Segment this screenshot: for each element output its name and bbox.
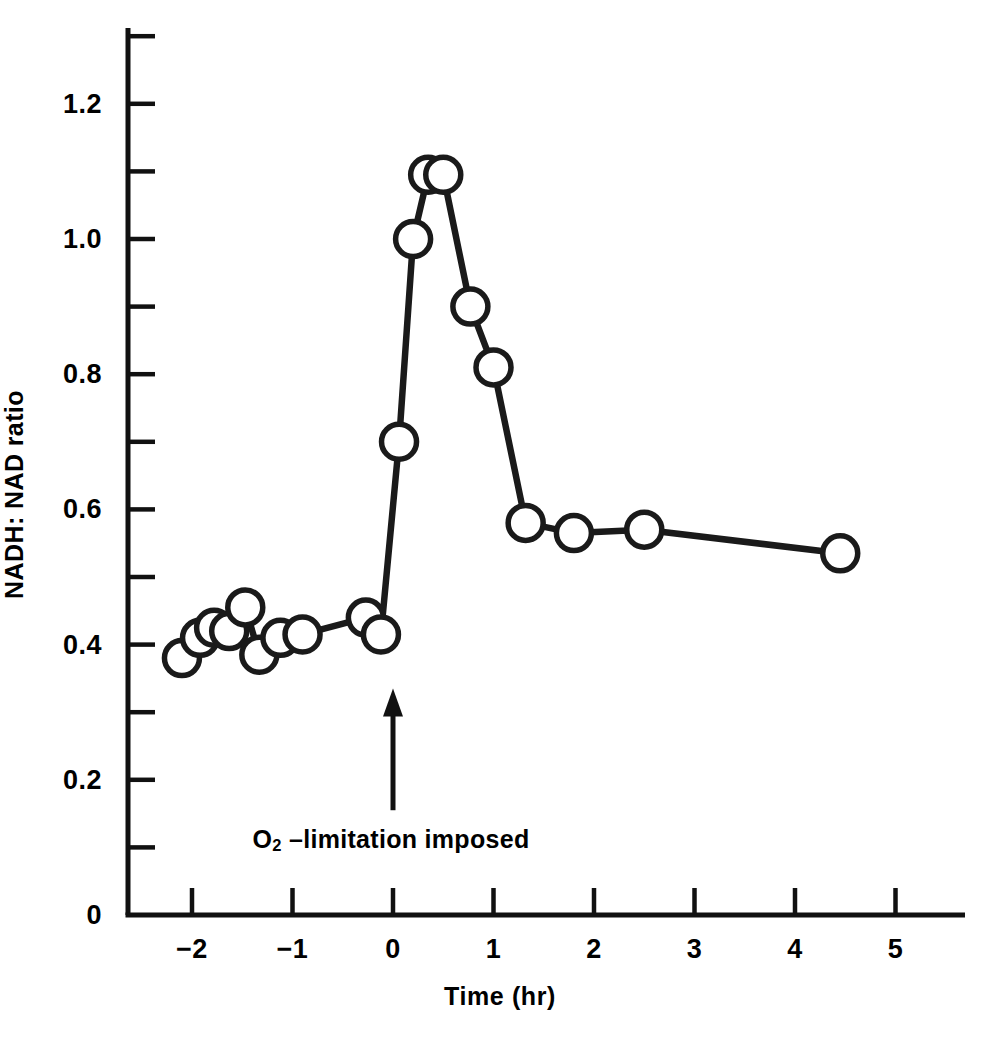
x-axis-tick-label: 4 [787,934,803,965]
x-axis-tick-label: −1 [277,934,309,965]
data-point-marker [627,512,662,547]
y-axis-tick-label: 1.2 [28,88,102,119]
axis-layer [126,28,966,915]
data-series-layer [164,157,857,675]
o2-limitation-annotation-label: O2 –limitation imposed [253,825,530,856]
annotation-arrow-head [383,689,403,717]
data-point-marker [556,516,591,551]
y-axis-title: NADH: NAD ratio [0,390,29,599]
x-axis-tick-label: 0 [385,934,401,965]
data-point-marker [382,424,417,459]
annotation-prefix: O [253,825,273,853]
y-axis-tick-label: 0.4 [28,629,102,660]
data-point-marker [228,590,263,625]
chart-figure: 00.20.40.60.81.01.2 −2−1012345 NADH: NAD… [0,0,1003,1045]
y-axis-tick-label: 0.8 [28,359,102,390]
y-axis-tick-label: 0.2 [28,764,102,795]
x-axis-tick-label: 5 [888,934,904,965]
y-axis-tick-label: 0.6 [28,494,102,525]
y-axis-tick-label: 0 [28,900,102,931]
x-axis-title: Time (hr) [444,982,556,1011]
annotation-layer [383,689,403,811]
data-point-marker [476,350,511,385]
data-point-marker [285,617,320,652]
data-point-marker [453,289,488,324]
annotation-subscript: 2 [272,836,281,854]
data-point-marker [363,617,398,652]
x-axis-tick-label: −2 [176,934,208,965]
data-point-marker [426,157,461,192]
y-axis-tick-label: 1.0 [28,224,102,255]
data-point-marker [396,222,431,257]
x-axis-tick-label: 2 [586,934,602,965]
annotation-suffix: –limitation imposed [282,825,530,853]
chart-plot-area [0,0,1003,1045]
x-axis-tick-label: 1 [486,934,502,965]
data-line [182,175,840,658]
x-axis-tick-label: 3 [687,934,703,965]
data-point-marker [823,536,858,571]
data-point-marker [508,505,543,540]
